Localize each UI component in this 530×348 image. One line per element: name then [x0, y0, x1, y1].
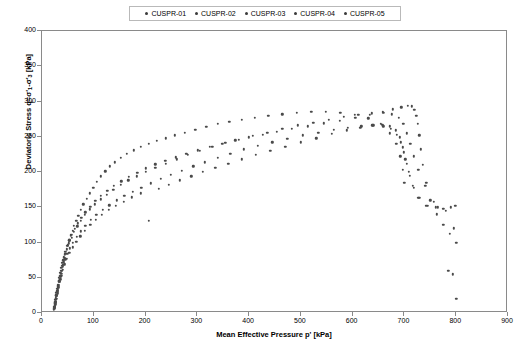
- data-point: [101, 214, 103, 216]
- data-point: [433, 200, 435, 202]
- data-point: [159, 178, 161, 180]
- data-point: [234, 139, 236, 141]
- data-point: [147, 219, 149, 221]
- data-point: [84, 224, 86, 226]
- data-point: [400, 141, 402, 143]
- data-point: [424, 185, 426, 187]
- data-point: [132, 149, 134, 151]
- data-point: [76, 225, 78, 227]
- data-point: [140, 192, 142, 194]
- data-point: [127, 179, 129, 181]
- data-point: [382, 112, 384, 114]
- data-point: [437, 206, 439, 208]
- data-point: [99, 198, 101, 200]
- data-point: [80, 209, 82, 211]
- data-point: [227, 162, 229, 164]
- data-point: [418, 134, 420, 136]
- data-point: [101, 209, 103, 211]
- data-point: [202, 171, 204, 173]
- data-point: [435, 213, 437, 215]
- data-point: [454, 205, 456, 207]
- data-point: [112, 188, 114, 190]
- data-point: [415, 114, 417, 116]
- legend-item-label: CUSPR-01: [151, 10, 186, 18]
- data-point: [241, 158, 243, 160]
- data-point: [406, 132, 408, 134]
- y-axis-label-text: Deviatoric Stress q=σ': [24, 90, 33, 169]
- data-point: [131, 196, 133, 198]
- y-axis-label: Deviatoric Stress q=σ'1-σ'3 [kPa]: [24, 27, 35, 197]
- data-point: [184, 131, 186, 133]
- data-point: [89, 224, 91, 226]
- x-axis-tick-mark: [507, 312, 508, 316]
- data-point: [79, 235, 81, 237]
- data-point: [394, 129, 396, 131]
- data-point: [84, 214, 86, 216]
- data-point: [119, 157, 121, 159]
- data-point: [325, 111, 327, 113]
- data-point: [140, 145, 142, 147]
- data-point: [399, 136, 401, 138]
- data-point: [404, 158, 406, 160]
- data-point: [136, 175, 138, 177]
- y-axis-tick-label: 50: [14, 273, 36, 281]
- legend-item-5: CUSPR-05: [344, 10, 385, 18]
- data-point: [216, 123, 218, 125]
- data-point: [136, 172, 138, 174]
- data-point: [95, 214, 97, 216]
- y-axis-tick-mark: [37, 242, 41, 243]
- data-point: [70, 236, 72, 238]
- x-axis-tick-mark: [248, 312, 249, 316]
- x-axis-tick-mark: [145, 312, 146, 316]
- legend-item-4: CUSPR-04: [294, 10, 335, 18]
- data-point: [398, 117, 400, 119]
- y-axis-tick-mark: [37, 206, 41, 207]
- data-point: [85, 198, 87, 200]
- data-point: [399, 155, 401, 157]
- data-point: [331, 133, 333, 135]
- plot-area: [41, 30, 507, 312]
- x-axis-tick-mark: [196, 312, 197, 316]
- data-point: [73, 224, 75, 226]
- data-point: [205, 126, 207, 128]
- data-point: [281, 113, 283, 115]
- x-axis-tick-mark: [455, 312, 456, 316]
- data-point: [300, 141, 302, 143]
- data-point: [71, 246, 73, 248]
- data-point: [224, 142, 226, 144]
- data-point: [455, 298, 457, 300]
- data-point: [73, 231, 75, 233]
- data-point: [228, 121, 230, 123]
- data-point: [144, 171, 146, 173]
- x-axis-tick-label: 800: [443, 317, 467, 325]
- data-point: [402, 169, 404, 171]
- data-point: [322, 122, 324, 124]
- data-point: [154, 163, 156, 165]
- y-axis-label-sub2: 3: [27, 74, 33, 77]
- data-point: [175, 158, 177, 160]
- x-axis-tick-label: 300: [184, 317, 208, 325]
- data-point: [120, 180, 122, 182]
- data-point: [395, 133, 397, 135]
- data-point: [229, 152, 231, 154]
- data-point: [339, 119, 341, 121]
- x-axis-tick-label: 500: [288, 317, 312, 325]
- x-axis-tick-mark: [403, 312, 404, 316]
- data-point: [113, 185, 115, 187]
- data-point: [420, 148, 422, 150]
- data-point: [413, 155, 415, 157]
- y-axis-tick-label: 150: [14, 202, 36, 210]
- data-point: [221, 143, 223, 145]
- data-point: [243, 148, 245, 150]
- data-point: [261, 133, 263, 135]
- data-point: [332, 128, 334, 130]
- data-point: [104, 170, 106, 172]
- data-point: [92, 186, 94, 188]
- data-point: [296, 112, 298, 114]
- data-point: [403, 181, 405, 183]
- x-axis-tick-label: 900: [495, 317, 519, 325]
- data-point: [413, 109, 415, 111]
- data-point: [267, 114, 269, 116]
- data-point: [417, 123, 419, 125]
- data-point: [281, 128, 283, 130]
